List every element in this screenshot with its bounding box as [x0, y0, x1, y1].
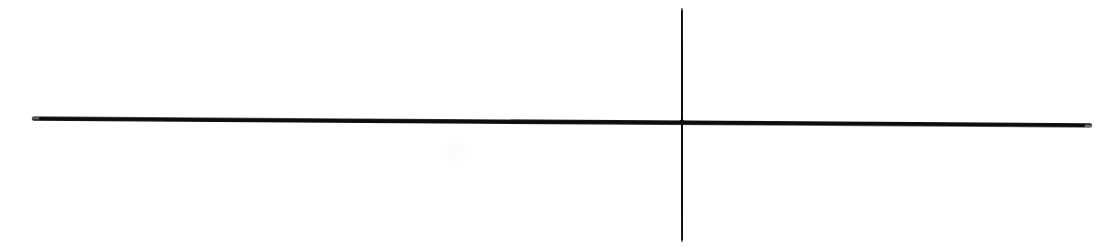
vertical-line [682, 10, 683, 240]
paper-smudge [440, 144, 470, 160]
cross-figure [0, 0, 1117, 247]
crossing-point [679, 119, 684, 124]
figure-canvas: Hand-drawn cross / plus mark Two dark in… [0, 0, 1117, 247]
